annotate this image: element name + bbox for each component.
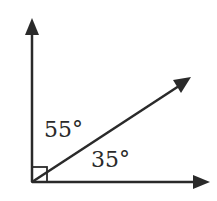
angle-label-55: 55° — [44, 119, 83, 141]
arrowhead-up-icon — [25, 18, 39, 35]
arrowhead-diagonal-icon — [173, 77, 191, 93]
arrowhead-right-icon — [193, 175, 210, 189]
angle-label-35: 35° — [91, 149, 130, 171]
